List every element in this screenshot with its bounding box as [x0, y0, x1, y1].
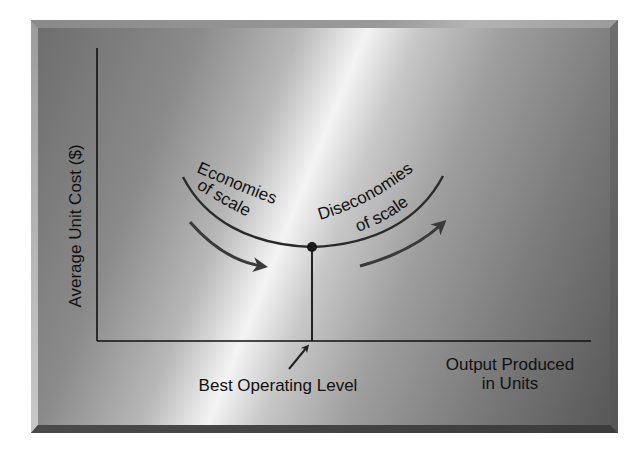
economies-arrow-icon	[190, 222, 262, 266]
minimum-point-marker	[307, 242, 317, 252]
best-operating-level-label: Best Operating Level	[199, 376, 358, 395]
y-axis-label: Average Unit Cost ($)	[66, 144, 85, 307]
x-axis-label-line1: Output Produced	[446, 355, 575, 374]
best-operating-pointer-icon	[289, 347, 307, 369]
cost-curve-diagram: Average Unit Cost ($) Economies of scale…	[0, 0, 636, 452]
x-axis-label-line2: in Units	[482, 374, 539, 393]
